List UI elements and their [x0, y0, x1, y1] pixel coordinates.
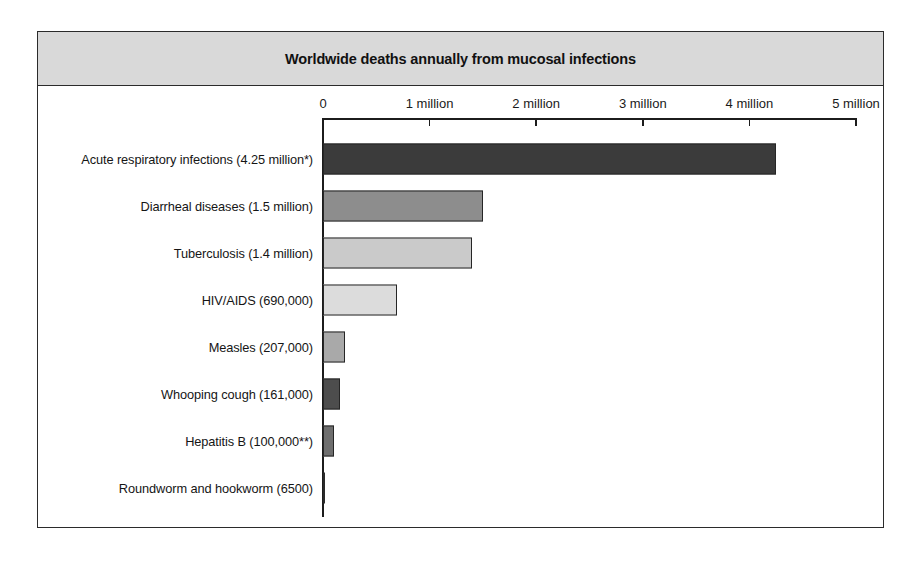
bar-category-label: Measles (207,000) — [209, 339, 313, 354]
bar-row: Roundworm and hookworm (6500) — [38, 464, 883, 511]
bar — [323, 331, 345, 362]
bar — [323, 190, 483, 221]
chart-figure: Worldwide deaths annually from mucosal i… — [37, 31, 884, 528]
plot-area: 01 million2 million3 million4 million5 m… — [38, 86, 883, 527]
x-axis-tick-label: 5 million — [832, 96, 880, 111]
bar-row: HIV/AIDS (690,000) — [38, 276, 883, 323]
bar — [323, 425, 334, 456]
chart-title: Worldwide deaths annually from mucosal i… — [285, 51, 636, 67]
bar-row: Diarrheal diseases (1.5 million) — [38, 182, 883, 229]
x-axis-tick-mark — [855, 118, 857, 126]
x-axis-tick-mark — [642, 118, 644, 126]
x-axis-tick-label: 3 million — [619, 96, 667, 111]
x-axis-tick-mark — [322, 118, 324, 126]
bar-row: Whooping cough (161,000) — [38, 370, 883, 417]
x-axis-tick-label: 0 — [319, 96, 326, 111]
bar-row: Acute respiratory infections (4.25 milli… — [38, 135, 883, 182]
bar — [323, 237, 472, 268]
x-axis-tick-label: 2 million — [512, 96, 560, 111]
x-axis-tick-label: 4 million — [726, 96, 774, 111]
x-axis-line — [323, 118, 856, 120]
bar-row: Hepatitis B (100,000**) — [38, 417, 883, 464]
bar-category-label: Acute respiratory infections (4.25 milli… — [81, 151, 313, 166]
x-axis-tick-mark — [535, 118, 537, 126]
bar-category-label: HIV/AIDS (690,000) — [202, 292, 313, 307]
x-axis-tick-mark — [429, 118, 431, 126]
bar-category-label: Diarrheal diseases (1.5 million) — [141, 198, 313, 213]
bar-category-label: Whooping cough (161,000) — [161, 386, 313, 401]
chart-title-band: Worldwide deaths annually from mucosal i… — [38, 32, 883, 86]
bar-category-label: Hepatitis B (100,000**) — [185, 433, 313, 448]
bar-row: Measles (207,000) — [38, 323, 883, 370]
bar-row: Tuberculosis (1.4 million) — [38, 229, 883, 276]
bar — [323, 143, 776, 174]
x-axis-tick-mark — [749, 118, 751, 126]
bar-category-label: Roundworm and hookworm (6500) — [119, 480, 313, 495]
bar — [323, 284, 397, 315]
bar-category-label: Tuberculosis (1.4 million) — [174, 245, 313, 260]
x-axis-tick-label: 1 million — [406, 96, 454, 111]
bar — [323, 378, 340, 409]
bar — [323, 472, 325, 503]
